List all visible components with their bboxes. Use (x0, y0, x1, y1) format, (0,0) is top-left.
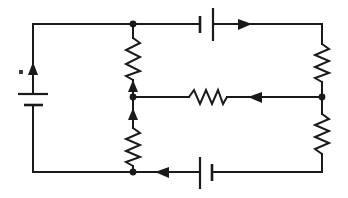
current-arrow-top-right-icon (238, 19, 252, 30)
resistor-lower-right-zigzag (315, 114, 329, 154)
junction-middle-left-dot (130, 94, 137, 101)
resistor-middle-zigzag (189, 90, 227, 104)
resistor-upper-right (315, 44, 329, 82)
current-arrow-middle-left-icon (248, 92, 262, 103)
junction-top-left-dot (130, 21, 137, 28)
junction-middle-right-dot (319, 94, 326, 101)
circuit-diagram-figure (0, 0, 348, 198)
resistor-upper-right-zigzag (315, 44, 329, 82)
stray-ink-dot (19, 70, 23, 74)
battery-left (18, 94, 48, 105)
resistor-lower-left-zigzag (126, 128, 140, 166)
current-arrow-left-up-icon (28, 62, 38, 75)
current-arrow-lower-left-up-icon (128, 108, 138, 120)
resistor-middle (189, 90, 227, 104)
resistor-lower-right (315, 114, 329, 154)
resistor-upper-left (126, 38, 140, 80)
current-arrow-bottom-left-icon (155, 167, 169, 178)
battery-top (200, 8, 213, 41)
junction-bottom-left-dot (130, 169, 137, 176)
resistor-upper-left-zigzag (126, 38, 140, 80)
current-arrow-upper-left-up-icon (128, 80, 138, 92)
battery-bottom (200, 157, 212, 189)
circuit-schematic-canvas (0, 0, 348, 198)
resistor-lower-left (126, 128, 140, 166)
